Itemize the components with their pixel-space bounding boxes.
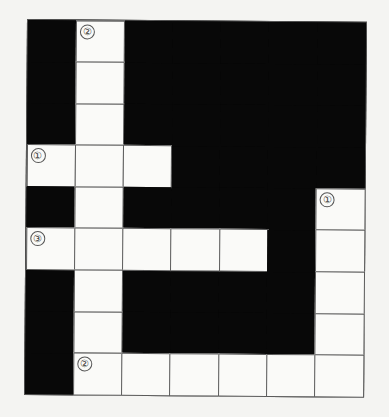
crossword-cell[interactable] [73,311,123,354]
block-cell [124,62,173,104]
block-cell [28,20,77,62]
block-cell [220,146,269,188]
block-cell [25,311,74,353]
block-cell [317,22,366,64]
block-cell [219,313,268,355]
clue-number: ③ [30,231,45,246]
block-cell [267,313,316,355]
crossword-cell[interactable]: ② [73,353,123,396]
block-cell [170,312,219,354]
crossword-cell[interactable] [122,228,172,271]
clue-number: ② [77,357,92,372]
crossword-cell[interactable] [75,61,125,104]
crossword-cell[interactable]: ② [75,20,125,63]
crossword-cell[interactable] [123,145,173,188]
crossword-cell[interactable] [73,269,123,312]
crossword-cell[interactable] [315,230,365,273]
block-cell [268,230,317,272]
block-cell [173,21,222,63]
block-cell [25,353,74,395]
crossword-cell[interactable] [266,354,316,397]
crossword-cell[interactable] [75,103,125,146]
block-cell [269,22,318,64]
block-cell [219,271,268,313]
block-cell [172,63,221,105]
clue-number: ① [320,192,335,207]
crossword-cell[interactable] [74,228,124,271]
clue-number: ② [80,24,95,39]
crossword-grid: ②①①③② [24,19,367,398]
crossword-cell[interactable] [218,354,268,397]
block-cell [122,312,171,354]
block-cell [316,147,365,189]
block-cell [268,105,317,147]
block-cell [317,105,366,147]
block-cell [172,146,221,188]
block-cell [269,63,318,105]
crossword-cell[interactable]: ① [316,188,366,231]
block-cell [27,103,76,145]
block-cell [123,187,172,229]
block-cell [171,188,220,230]
crossword-cell[interactable] [74,145,124,188]
block-cell [26,270,75,312]
block-cell [268,147,317,189]
block-cell [268,188,317,230]
crossword-cell[interactable] [74,186,124,229]
block-cell [317,64,366,106]
block-cell [220,105,269,147]
block-cell [267,271,316,313]
block-cell [172,104,221,146]
crossword-cell[interactable]: ① [26,144,76,187]
block-cell [171,271,220,313]
block-cell [27,62,76,104]
crossword-cell[interactable] [121,353,171,396]
block-cell [220,188,269,230]
crossword-cell[interactable] [169,353,219,396]
crossword-cell[interactable] [219,229,269,272]
block-cell [26,186,75,228]
crossword-cell[interactable] [315,313,365,356]
block-cell [221,63,270,105]
crossword-cell[interactable] [314,355,364,398]
block-cell [124,21,173,63]
block-cell [221,22,270,64]
clue-number: ① [30,148,45,163]
block-cell [124,104,173,146]
crossword-cell[interactable]: ③ [26,227,76,270]
crossword-cell[interactable] [170,229,220,272]
crossword-cell[interactable] [315,271,365,314]
block-cell [122,270,171,312]
